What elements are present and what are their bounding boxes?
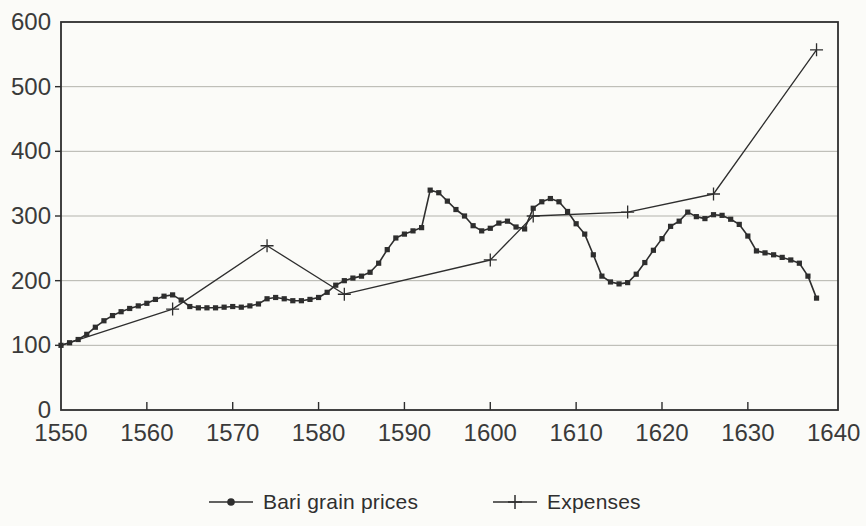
bari-grain-prices-marker <box>702 216 707 221</box>
bari-grain-prices-marker <box>436 190 441 195</box>
bari-grain-prices-marker <box>153 297 158 302</box>
bari-grain-prices-marker <box>316 295 321 300</box>
bari-grain-prices-marker <box>161 294 166 299</box>
x-tick-label-1610: 1610 <box>549 419 602 446</box>
bari-grain-prices-marker <box>574 221 579 226</box>
bari-grain-prices-marker <box>728 217 733 222</box>
bari-grain-prices-marker <box>651 248 656 253</box>
x-tick-label-1560: 1560 <box>120 419 173 446</box>
bari-grain-prices-marker <box>814 296 819 301</box>
x-tick-label-1620: 1620 <box>635 419 688 446</box>
bari-grain-prices-marker <box>307 297 312 302</box>
bari-grain-prices-marker <box>110 313 115 318</box>
bari-grain-prices-marker <box>144 301 149 306</box>
bari-grain-prices-marker <box>539 199 544 204</box>
bari-grain-prices-marker <box>342 278 347 283</box>
bari-grain-prices-marker <box>187 304 192 309</box>
bari-grain-prices-marker <box>642 260 647 265</box>
bari-grain-prices-marker <box>694 214 699 219</box>
bari-grain-prices-marker <box>591 252 596 257</box>
bari-grain-prices-marker <box>393 235 398 240</box>
expenses-marker <box>810 43 823 56</box>
bari-grain-prices-marker <box>616 281 621 286</box>
bari-grain-prices-marker <box>359 274 364 279</box>
chart-legend: Bari grain prices Expenses <box>0 488 866 520</box>
expenses-marker <box>166 303 179 316</box>
bari-grain-prices-marker <box>118 309 123 314</box>
bari-grain-prices-marker <box>668 224 673 229</box>
bari-grain-prices-marker <box>488 226 493 231</box>
bari-grain-prices-marker <box>505 219 510 224</box>
bari-grain-prices-marker <box>93 325 98 330</box>
bari-grain-prices-marker <box>273 295 278 300</box>
y-tick-label-600: 600 <box>11 8 51 35</box>
bari-grain-prices-marker <box>256 301 261 306</box>
bari-grain-prices-marker <box>711 212 716 217</box>
bari-grain-prices-marker <box>745 233 750 238</box>
bari-grain-prices-marker <box>582 232 587 237</box>
bari-grain-prices-marker <box>428 188 433 193</box>
y-tick-label-500: 500 <box>11 73 51 100</box>
bari-grain-prices-marker <box>445 199 450 204</box>
bari-grain-prices-marker <box>797 261 802 266</box>
bari-grain-prices-marker <box>471 223 476 228</box>
bari-grain-prices-marker <box>762 250 767 255</box>
bari-grain-prices-marker <box>196 305 201 310</box>
bari-grain-prices-marker <box>677 219 682 224</box>
bari-grain-prices-marker <box>170 292 175 297</box>
bari-grain-prices-marker <box>659 236 664 241</box>
legend-item-expenses: Expenses <box>492 488 641 516</box>
bari-grain-prices-marker <box>634 272 639 277</box>
line-chart: 0100200300400500600155015601570158015901… <box>0 0 866 526</box>
bari-grain-prices-marker <box>410 228 415 233</box>
bari-grain-prices-marker <box>453 207 458 212</box>
bari-grain-prices-marker <box>419 225 424 230</box>
expenses-swatch-icon <box>492 494 538 510</box>
bari-grain-prices-marker <box>719 213 724 218</box>
x-tick-label-1640: 1640 <box>807 419 860 446</box>
bari-grain-prices-marker <box>376 261 381 266</box>
bari-grain-prices-marker <box>599 274 604 279</box>
y-tick-label-400: 400 <box>11 137 51 164</box>
bari-grain-prices-marker <box>127 306 132 311</box>
bari-grain-prices-marker <box>548 196 553 201</box>
bari-grain-prices-swatch-icon <box>208 494 254 510</box>
expenses-marker <box>261 239 274 252</box>
bari-grain-prices-marker <box>230 304 235 309</box>
x-tick-label-1600: 1600 <box>464 419 517 446</box>
bari-grain-prices-marker <box>556 199 561 204</box>
bari-grain-prices-marker <box>325 290 330 295</box>
x-tick-label-1550: 1550 <box>34 419 87 446</box>
bari-grain-prices-marker <box>462 213 467 218</box>
bari-grain-prices-marker <box>805 274 810 279</box>
expenses-line <box>61 50 817 346</box>
legend-item-bari-grain-prices: Bari grain prices <box>208 488 418 516</box>
expenses-marker <box>621 206 634 219</box>
legend-label-expenses: Expenses <box>547 490 641 514</box>
bari-grain-prices-marker <box>479 228 484 233</box>
expenses-marker <box>338 288 351 301</box>
bari-grain-prices-marker <box>685 210 690 215</box>
bari-grain-prices-marker <box>204 305 209 310</box>
bari-grain-prices-marker <box>754 248 759 253</box>
bari-grain-prices-marker <box>513 224 518 229</box>
bari-grain-prices-marker <box>780 255 785 260</box>
bari-grain-prices-marker <box>239 305 244 310</box>
bari-grain-prices-line <box>61 190 817 345</box>
bari-grain-prices-marker <box>625 280 630 285</box>
bari-grain-prices-marker <box>290 298 295 303</box>
bari-grain-prices-marker <box>367 270 372 275</box>
bari-grain-prices-marker <box>264 296 269 301</box>
bari-grain-prices-marker <box>496 221 501 226</box>
expenses-marker <box>707 188 720 201</box>
bari-grain-prices-marker <box>299 298 304 303</box>
x-tick-label-1630: 1630 <box>721 419 774 446</box>
y-tick-label-300: 300 <box>11 202 51 229</box>
y-tick-label-100: 100 <box>11 331 51 358</box>
bari-grain-prices-marker <box>350 275 355 280</box>
x-tick-label-1580: 1580 <box>292 419 345 446</box>
bari-grain-prices-marker <box>385 247 390 252</box>
x-tick-label-1570: 1570 <box>206 419 259 446</box>
bari-grain-prices-marker <box>136 303 141 308</box>
bari-grain-prices-marker <box>101 318 106 323</box>
